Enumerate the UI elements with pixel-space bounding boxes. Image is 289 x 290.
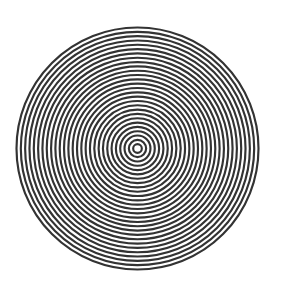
ring [73, 84, 203, 214]
ring [55, 66, 219, 230]
concentric-circles-figure [0, 0, 289, 290]
ring [133, 144, 142, 153]
ring [99, 110, 177, 188]
ring [86, 97, 190, 201]
ring [60, 71, 216, 227]
ring [116, 127, 159, 170]
ring-group [17, 28, 259, 270]
ring [90, 101, 185, 196]
ring [103, 114, 172, 183]
ring [17, 28, 259, 270]
ring [129, 140, 146, 157]
ring [42, 53, 232, 243]
ring [29, 40, 245, 256]
ring [47, 58, 229, 240]
